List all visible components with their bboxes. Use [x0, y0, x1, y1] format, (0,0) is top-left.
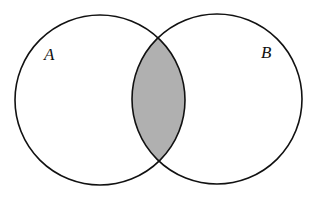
set-a-label: A: [43, 45, 55, 64]
set-b-label: B: [261, 43, 272, 62]
venn-diagram: A B: [0, 0, 320, 202]
intersection-region: [132, 14, 302, 184]
